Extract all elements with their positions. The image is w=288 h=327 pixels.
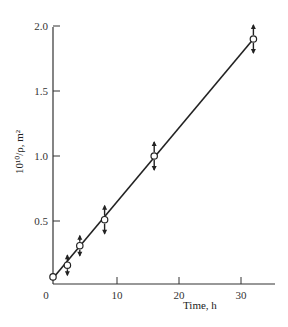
arrow-up-icon: [102, 205, 107, 210]
y-axis-label: 10¹⁰/ρ, m²: [13, 129, 25, 174]
data-point: [50, 274, 56, 280]
axes: [53, 27, 275, 284]
arrow-down-icon: [102, 230, 107, 235]
arrow-down-icon: [77, 252, 82, 257]
open-circle-marker: [250, 36, 256, 42]
data-point: [77, 235, 83, 257]
arrow-up-icon: [251, 24, 256, 29]
arrow-up-icon: [77, 235, 82, 240]
x-tick-label: 10: [112, 289, 124, 301]
series: [50, 24, 257, 280]
open-circle-marker: [64, 262, 70, 268]
y-tick-label: 1.0: [34, 150, 48, 162]
arrow-down-icon: [251, 49, 256, 54]
data-point: [250, 24, 256, 54]
arrow-up-icon: [152, 141, 157, 146]
y-tick-label: 2.0: [34, 20, 48, 32]
x-tick-label: 0: [43, 289, 49, 301]
arrow-down-icon: [65, 271, 70, 276]
data-point: [151, 141, 157, 171]
open-circle-marker: [101, 217, 107, 223]
x-axis-label: Time, h: [183, 299, 217, 311]
open-circle-marker: [50, 274, 56, 280]
arrow-down-icon: [152, 166, 157, 171]
open-circle-marker: [151, 153, 157, 159]
y-tick-label: 0.5: [34, 215, 48, 227]
y-tick-label: 1.5: [34, 85, 48, 97]
arrow-up-icon: [65, 254, 70, 259]
y-ticks: 0.51.01.52.0: [34, 20, 60, 227]
x-tick-label: 30: [236, 289, 248, 301]
chart: 0.51.01.52.0 0102030 Time, h 10¹⁰/ρ, m²: [0, 0, 288, 327]
data-point: [101, 205, 107, 235]
open-circle-marker: [77, 243, 83, 249]
x-ticks: 0102030: [43, 277, 247, 301]
